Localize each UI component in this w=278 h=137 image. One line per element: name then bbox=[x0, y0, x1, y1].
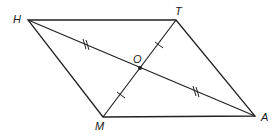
parallelogram-diagram: H T O M A bbox=[0, 0, 278, 137]
label-a: A bbox=[261, 111, 268, 123]
label-h: H bbox=[13, 13, 21, 25]
diagram-svg bbox=[0, 0, 278, 137]
label-t: T bbox=[175, 5, 182, 17]
center-point-o bbox=[138, 66, 142, 70]
label-m: M bbox=[95, 120, 104, 132]
label-o: O bbox=[133, 53, 142, 65]
